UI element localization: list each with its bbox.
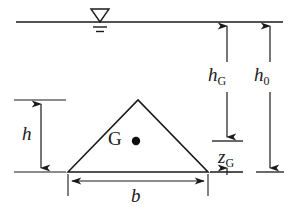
diagram-canvas bbox=[0, 0, 295, 212]
label-h-base: h bbox=[22, 123, 32, 144]
label-h-0-sub: 0 bbox=[264, 74, 270, 88]
label-z-g-sub: G bbox=[225, 156, 234, 170]
label-h-0-base: h bbox=[254, 64, 264, 85]
label-h: h bbox=[22, 124, 32, 143]
label-b: b bbox=[131, 186, 141, 205]
label-centroid-g: G bbox=[108, 129, 122, 148]
label-h-g: hG bbox=[208, 65, 226, 84]
label-z-g: zG bbox=[218, 147, 234, 166]
label-b-base: b bbox=[131, 185, 141, 206]
triangle-shape bbox=[68, 100, 208, 172]
label-centroid-g-base: G bbox=[108, 128, 122, 149]
label-h-0: h0 bbox=[254, 65, 270, 84]
centroid-dot bbox=[132, 137, 140, 145]
hydrostatics-diagram: h b hG h0 zG G bbox=[0, 0, 295, 212]
water-level-triangle-icon bbox=[91, 9, 109, 32]
label-h-g-sub: G bbox=[218, 74, 227, 88]
label-h-g-base: h bbox=[208, 64, 218, 85]
